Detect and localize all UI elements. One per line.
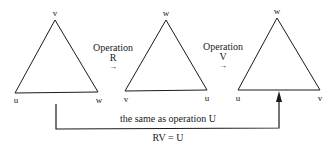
vertex-label-t2-top: w xyxy=(163,9,170,18)
triangle-initial xyxy=(15,20,98,93)
vertex-label-t1-bottom-left: u xyxy=(14,96,19,105)
vertex-label-t1-bottom-right: w xyxy=(96,96,103,105)
vertex-label-t3-bottom-left: u xyxy=(236,94,241,103)
connector-arrowhead-icon xyxy=(276,91,282,102)
triangle-after-R xyxy=(125,20,207,91)
composite-description: the same as operation U xyxy=(120,114,216,124)
vertex-label-t3-bottom-right: v xyxy=(318,94,323,103)
vertex-label-t2-bottom-left: v xyxy=(124,95,129,104)
operation-R-arrow-icon: → xyxy=(109,62,117,72)
vertex-label-t1-top: v xyxy=(53,9,58,18)
vertex-label-t3-top: w xyxy=(274,7,281,16)
operation-V-arrow-icon: → xyxy=(219,61,227,71)
triangle-after-V xyxy=(238,18,320,90)
diagram-canvas xyxy=(0,0,334,146)
composite-equation: RV = U xyxy=(153,133,184,143)
vertex-label-t2-bottom-right: u xyxy=(205,94,210,103)
